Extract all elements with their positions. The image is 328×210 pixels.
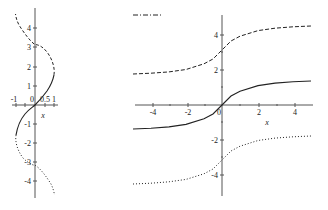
figure: 4 3 2 1 -1 -2 -3 -4 -1 0 0.5 1 x [0, 0, 328, 210]
right-y-tick-label: 4 [214, 31, 218, 40]
right-x-tick-label: -2 [185, 108, 192, 117]
left-y-tick-label: 2 [27, 63, 31, 72]
left-y-tick-label: -1 [24, 120, 31, 129]
left-y-tick-label: -2 [24, 139, 31, 148]
left-x-tick-label: -1 [11, 95, 18, 104]
left-y-tick-label: -4 [24, 177, 31, 186]
right-y-tick-label: -2 [211, 136, 218, 145]
right-x-tick-label: -4 [150, 108, 157, 117]
left-x-axis-label: x [40, 111, 45, 120]
left-x-tick-label: 1 [52, 95, 56, 104]
right-chart: -4 -2 0 2 4 x 4 2 -2 -4 [133, 15, 313, 196]
right-x-axis-label: x [264, 118, 269, 127]
left-y-tick-label: 3 [27, 43, 31, 52]
right-y-tick-label: -4 [211, 171, 218, 180]
left-y-tick-label: 4 [27, 24, 31, 33]
left-chart: 4 3 2 1 -1 -2 -3 -4 -1 0 0.5 1 x [11, 8, 58, 198]
left-x-tick-label: 0 [30, 95, 34, 104]
right-y-tick-label: 2 [214, 66, 218, 75]
left-y-tick-label: 1 [27, 82, 31, 91]
right-x-tick-label: 2 [257, 108, 261, 117]
right-x-tick-label: 4 [293, 108, 297, 117]
left-x-tick-label: 0.5 [40, 95, 50, 104]
